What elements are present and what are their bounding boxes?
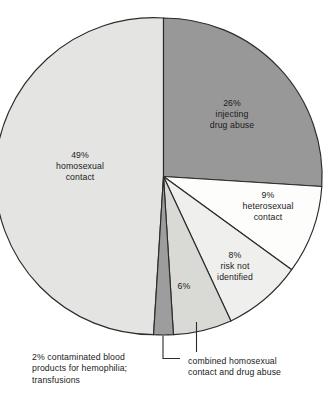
slice-label-injecting-drug-abuse: 26% injecting drug abuse	[186, 98, 278, 132]
slice-label-heterosexual-contact: 9% heterosexual contact	[222, 190, 314, 224]
slice-label-homosexual-contact: 49% homosexual contact	[28, 150, 132, 184]
slice-label-risk-not-identified: 8% risk not identified	[196, 250, 274, 284]
pie-chart: 26% injecting drug abuse 49% homosexual …	[0, 0, 327, 404]
callout-label-contaminated-blood: 2% contaminated blood products for hemop…	[32, 352, 182, 386]
callout-label-combined-homosexual-drug: combined homosexual contact and drug abu…	[188, 356, 326, 379]
slice-label-combined-percent: 6%	[168, 281, 200, 292]
